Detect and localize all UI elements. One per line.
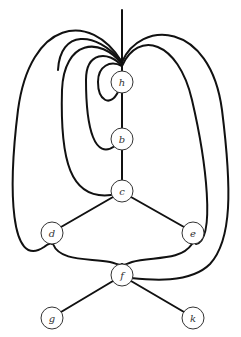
graph-diagram: h b c d e f g k [0,0,241,337]
node-label-g: g [49,313,55,324]
node-b[interactable]: b [111,128,133,150]
node-e[interactable]: e [182,222,204,244]
edge-top-f-right [122,35,228,280]
node-label-e: e [190,228,196,239]
node-label-h: h [119,77,125,88]
node-label-c: c [119,186,125,197]
edge-top-e [122,45,207,244]
edge-c-d [61,197,113,227]
node-label-b: b [119,134,125,145]
node-label-d: d [49,228,55,239]
edge-e-f [122,244,192,265]
node-c[interactable]: c [111,180,133,202]
node-k[interactable]: k [182,307,204,329]
edge-d-f [53,244,122,265]
edge-f-g [61,281,113,312]
node-d[interactable]: d [41,222,63,244]
node-h[interactable]: h [111,71,133,93]
node-g[interactable]: g [41,307,63,329]
node-f[interactable]: f [111,264,133,286]
edge-top-c [62,47,122,196]
node-label-k: k [190,313,196,324]
graph-svg: h b c d e f g k [0,0,241,337]
edge-f-k [131,281,184,312]
edge-c-e [131,197,184,227]
